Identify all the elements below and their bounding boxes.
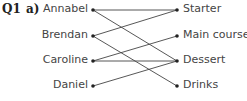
node-dot-main-course	[175, 34, 179, 38]
node-dot-starter	[175, 8, 179, 12]
node-dot-annabel	[91, 8, 95, 12]
edge-daniel-dessert	[93, 61, 177, 86]
node-dot-brendan	[91, 34, 95, 38]
node-dot-caroline	[91, 59, 95, 63]
node-dot-drinks	[175, 84, 179, 88]
node-dot-daniel	[91, 84, 95, 88]
node-dot-dessert	[175, 59, 179, 63]
edge-brendan-starter	[93, 10, 177, 36]
bipartite-graph	[0, 0, 247, 101]
edge-caroline-main-course	[93, 36, 177, 61]
edge-annabel-dessert	[93, 10, 177, 61]
